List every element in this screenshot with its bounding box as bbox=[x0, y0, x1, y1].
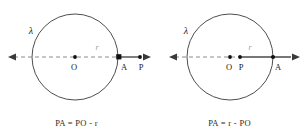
point-O-marker bbox=[228, 55, 232, 59]
label-lambda: λ bbox=[183, 25, 189, 36]
point-A-marker bbox=[116, 54, 121, 59]
label-A: A bbox=[121, 62, 128, 72]
label-lambda: λ bbox=[28, 25, 34, 36]
point-A-marker bbox=[271, 55, 275, 59]
label-O: O bbox=[71, 62, 77, 72]
caption-right: PA = r - PO bbox=[153, 118, 306, 128]
right-arrowhead-icon bbox=[143, 54, 151, 61]
figure-canvas: λ O r A P PA = PO - r λ bbox=[0, 0, 306, 138]
left-arrowhead-icon bbox=[8, 54, 16, 61]
right-diagram-svg: λ O P r A bbox=[153, 0, 306, 118]
point-O-marker bbox=[73, 55, 77, 59]
label-P: P bbox=[239, 62, 244, 72]
left-arrowhead-icon bbox=[169, 54, 177, 61]
label-r: r bbox=[95, 43, 99, 52]
point-P-marker bbox=[138, 55, 142, 59]
right-arrowhead-icon bbox=[292, 54, 300, 61]
point-P-marker bbox=[238, 55, 242, 59]
diagram-panel-right: λ O P r A PA = r - PO bbox=[153, 0, 306, 138]
caption-left: PA = PO - r bbox=[0, 118, 153, 128]
label-O: O bbox=[226, 62, 232, 72]
label-A: A bbox=[275, 62, 282, 72]
label-P: P bbox=[139, 62, 144, 72]
left-diagram-svg: λ O r A P bbox=[0, 0, 153, 118]
label-r: r bbox=[248, 43, 252, 52]
diagram-panel-left: λ O r A P PA = PO - r bbox=[0, 0, 153, 138]
